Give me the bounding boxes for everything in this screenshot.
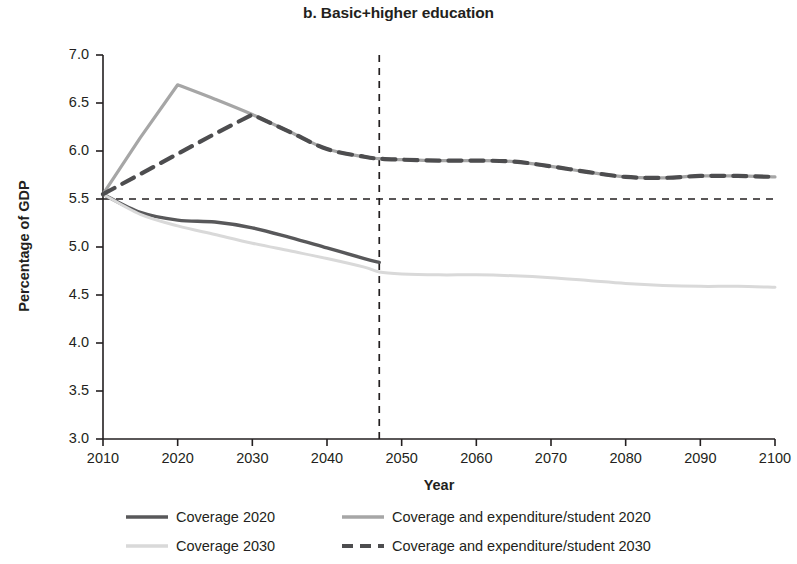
reference-lines (103, 55, 775, 439)
chart-figure: b. Basic+higher education Percentage of … (0, 0, 797, 564)
legend-label: Coverage 2020 (176, 510, 275, 525)
legend-swatch-icon (341, 510, 385, 524)
series-line-0 (103, 194, 379, 262)
legend-swatch-icon (125, 510, 169, 524)
legend-item[interactable]: Coverage 2020 (125, 503, 275, 531)
data-series-group (103, 85, 775, 288)
series-line-1 (103, 194, 775, 287)
axis-tick-marks (96, 55, 775, 446)
legend-item[interactable]: Coverage 2030 (125, 532, 275, 560)
series-line-3 (103, 115, 775, 195)
legend-item[interactable]: Coverage and expenditure/student 2020 (341, 503, 651, 531)
legend-label: Coverage and expenditure/student 2020 (392, 510, 651, 525)
legend-swatch-icon (125, 539, 169, 553)
axis-lines (103, 55, 775, 439)
plot-area (0, 0, 797, 564)
legend-label: Coverage and expenditure/student 2030 (392, 539, 651, 554)
legend-item[interactable]: Coverage and expenditure/student 2030 (341, 532, 651, 560)
chart-legend: Coverage 2020Coverage and expenditure/st… (103, 503, 775, 561)
legend-swatch-icon (341, 539, 385, 553)
legend-label: Coverage 2030 (176, 539, 275, 554)
